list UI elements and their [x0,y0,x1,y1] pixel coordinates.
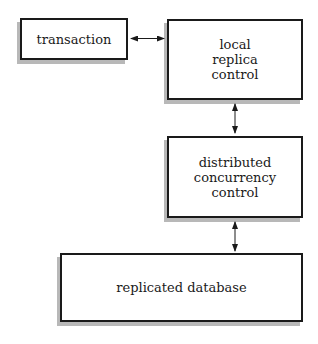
connector-arrows [0,0,318,344]
